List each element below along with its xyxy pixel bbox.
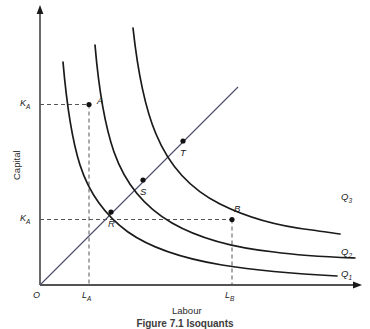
x-tick-la-sub: A	[87, 295, 91, 302]
curve-label-q2: Q2	[341, 247, 352, 259]
point-marker-b	[229, 217, 234, 222]
point-label-t: T	[180, 148, 186, 158]
curve-label-q2-sub: 2	[348, 252, 352, 259]
y-tick-ka-lower-sub: A	[26, 218, 30, 225]
point-marker-r	[108, 209, 113, 214]
isoquant-curve-q2	[95, 45, 355, 258]
point-label-r: R	[108, 219, 115, 229]
point-label-a: A	[97, 96, 103, 106]
marked-points-group	[86, 102, 234, 222]
x-tick-lb-sub: B	[230, 295, 234, 302]
curve-label-q3-sub: 3	[348, 197, 352, 204]
y-tick-ka-upper-sub: A	[26, 103, 30, 110]
point-marker-s	[140, 177, 145, 182]
curve-label-q3: Q3	[341, 192, 352, 204]
y-tick-label-ka-lower: KA	[20, 214, 30, 225]
point-marker-a	[86, 102, 91, 107]
isoquant-curve-q1	[63, 62, 337, 276]
figure-caption: Figure 7.1 Isoquants	[0, 318, 370, 329]
y-axis-title: Capital	[12, 150, 22, 180]
x-tick-label-lb: LB	[225, 291, 234, 302]
curve-label-q1: Q1	[341, 269, 352, 281]
x-axis-title: Labour	[172, 306, 202, 316]
origin-label: O	[33, 291, 40, 300]
point-label-s: S	[140, 187, 146, 197]
axes-group	[37, 5, 362, 288]
curve-label-q1-sub: 1	[348, 274, 352, 281]
point-marker-t	[180, 138, 185, 143]
isoquant-figure: Capital Labour O KA KA LA LB A R S T B Q…	[0, 0, 370, 329]
point-label-b: B	[234, 204, 240, 214]
isoquant-plot	[0, 0, 370, 329]
y-tick-label-ka-upper: KA	[20, 99, 30, 110]
x-tick-label-la: LA	[82, 291, 91, 302]
